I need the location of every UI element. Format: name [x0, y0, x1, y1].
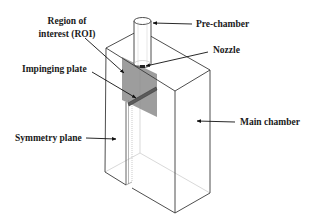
- label-roi-line1: Region of: [48, 16, 88, 26]
- pre-chamber-cylinder: [134, 18, 151, 68]
- nozzle: [140, 65, 145, 68]
- leader-lines: [85, 23, 235, 139]
- label-main-chamber: Main chamber: [240, 117, 301, 127]
- label-pre-chamber: Pre-chamber: [196, 19, 250, 29]
- labels: Region of interest (ROI) Impinging plate…: [15, 16, 301, 143]
- label-impinging-plate: Impinging plate: [22, 64, 87, 74]
- symmetry-plane-leader: [86, 138, 116, 139]
- main-chamber-leader: [197, 121, 235, 122]
- roi-plane: [122, 57, 157, 117]
- pre-chamber-leader: [153, 23, 192, 24]
- symmetry-plane-strip: [126, 98, 132, 185]
- main-chamber-hidden-edges: [105, 30, 210, 193]
- label-nozzle: Nozzle: [213, 45, 240, 55]
- main-chamber-box: [105, 30, 210, 213]
- label-roi-line2: interest (ROI): [38, 29, 95, 40]
- chamber-diagram: Region of interest (ROI) Impinging plate…: [0, 0, 315, 224]
- label-symmetry-plane: Symmetry plane: [15, 133, 82, 143]
